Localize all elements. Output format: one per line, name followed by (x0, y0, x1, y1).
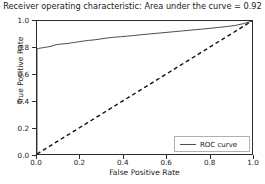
legend-entry-label: ROC curve (200, 139, 237, 151)
x-tick-mark (36, 155, 37, 159)
x-tick-mark (79, 155, 80, 159)
chance-diagonal-line (37, 21, 252, 154)
curve-layer (37, 21, 252, 154)
x-tick-label: 0.2 (74, 158, 85, 167)
x-tick-mark (210, 155, 211, 159)
x-tick-label: 0.4 (117, 158, 128, 167)
x-tick-label: 0.6 (160, 158, 171, 167)
legend-line-swatch (180, 144, 196, 145)
x-tick-label: 1.0 (247, 158, 258, 167)
plot-area (36, 20, 253, 155)
x-tick-mark (253, 155, 254, 159)
y-axis-label: True Positive Rate (16, 16, 25, 126)
x-tick-mark (166, 155, 167, 159)
chart-legend: ROC curve (174, 136, 250, 152)
x-axis-label: False Positive Rate (36, 168, 253, 177)
roc-chart-figure: Receiver operating characteristic: Area … (0, 0, 265, 184)
x-tick-mark (123, 155, 124, 159)
x-tick-label: 0.0 (30, 158, 41, 167)
x-tick-label: 0.8 (204, 158, 215, 167)
